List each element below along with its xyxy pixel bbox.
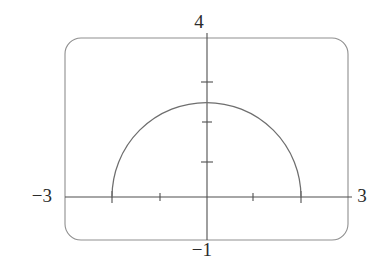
y-axis-min-label: −1: [192, 240, 213, 259]
y-axis-max-label: 4: [194, 12, 204, 31]
x-axis-max-label: 3: [357, 186, 367, 205]
x-axis-min-label: −3: [32, 186, 53, 205]
plot-canvas: [0, 0, 385, 267]
graph-figure: 4 −1 −3 3: [0, 0, 385, 267]
